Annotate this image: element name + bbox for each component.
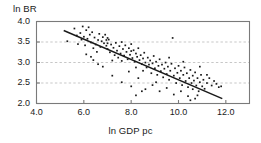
y-tick-label: 4.0 [4, 16, 30, 26]
gridlines [37, 42, 250, 83]
x-tick-label: 8.0 [116, 107, 146, 117]
y-tick-label: 3.5 [4, 36, 30, 46]
x-tick-label: 6.0 [69, 107, 99, 117]
x-tick-label: 4.0 [22, 107, 52, 117]
plot-canvas [0, 0, 261, 143]
y-tick-label: 2.5 [4, 77, 30, 87]
y-tick-label: 3.0 [4, 57, 30, 67]
data-points [66, 26, 222, 101]
scatter-chart-figure: ln BR 4.03.53.02.52.0 4.06.08.010.012.0 … [0, 0, 261, 143]
x-tick-label: 12.0 [211, 107, 241, 117]
x-axis-label: ln GDP pc [0, 125, 261, 136]
x-tick-label: 10.0 [164, 107, 194, 117]
trendline [64, 31, 223, 99]
